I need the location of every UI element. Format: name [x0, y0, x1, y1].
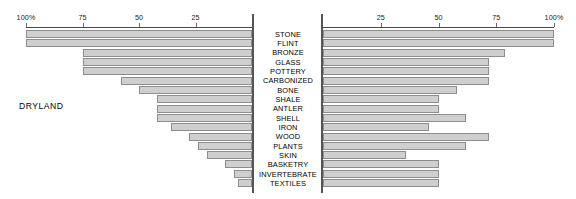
axis-tick-75: [496, 23, 497, 27]
axis-tick-label-25: 25: [361, 13, 401, 22]
panel-caption-dryland: DRYLAND: [19, 101, 63, 111]
bar-wetland-bone: [323, 86, 457, 94]
bar-wetland-carbonized: [323, 77, 489, 85]
axis-tick-50: [139, 23, 140, 27]
axis-tick-100: [554, 23, 555, 27]
bar-wetland-skin: [323, 151, 406, 159]
axis-tick-50: [439, 23, 440, 27]
chart-panel-wetland: 255075100% WETLAND: [314, 0, 576, 199]
bar-wetland-stone: [323, 30, 554, 38]
category-label-column: STONEFLINTBRONZEGLASSPOTTERYCARBONIZEDBO…: [262, 0, 314, 199]
bar-wetland-shale: [323, 95, 439, 103]
bar-wetland-textiles: [323, 179, 439, 187]
bar-wetland-plants: [323, 142, 466, 150]
bar-wetland-bronze: [323, 49, 505, 57]
bar-wetland-shell: [323, 114, 466, 122]
bar-wetland-flint: [323, 39, 554, 47]
axis-tick-label-100: 100%: [534, 13, 574, 22]
bar-wetland-invertebrate: [323, 170, 439, 178]
bar-wetland-glass: [323, 58, 489, 66]
axis-tick-25: [196, 23, 197, 27]
bar-wetland-basketry: [323, 160, 439, 168]
axis-tick-label-75: 75: [63, 13, 103, 22]
figure: 100%755025 DRYLAND STONEFLINTBRONZEGLASS…: [0, 0, 576, 199]
bar-wetland-iron: [323, 123, 429, 131]
axis-line-wetland: [323, 27, 554, 28]
bar-wetland-antler: [323, 105, 439, 113]
bar-wetland-wood: [323, 133, 489, 141]
axis-tick-label-75: 75: [476, 13, 516, 22]
axis-tick-label-50: 50: [419, 13, 459, 22]
axis-tick-25: [381, 23, 382, 27]
axis-tick-label-50: 50: [119, 13, 159, 22]
axis-line-dryland: [26, 27, 252, 28]
bar-wetland-pottery: [323, 67, 489, 75]
axis-tick-100: [26, 23, 27, 27]
axis-tick-label-25: 25: [176, 13, 216, 22]
axis-tick-75: [83, 23, 84, 27]
axis-tick-label-100: 100%: [6, 13, 46, 22]
